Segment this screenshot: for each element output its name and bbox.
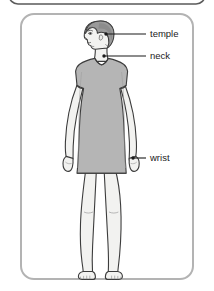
annotation-neck[interactable]: neck xyxy=(102,50,170,61)
label-temple: temple xyxy=(150,28,179,39)
diagram-canvas: temple neck wrist xyxy=(0,0,214,291)
annotation-temple[interactable]: temple xyxy=(104,28,178,39)
temple-marker-dot xyxy=(104,32,107,35)
neck-marker-dot xyxy=(102,54,105,57)
label-neck: neck xyxy=(150,50,170,61)
label-wrist: wrist xyxy=(149,152,170,163)
annotation-wrist[interactable]: wrist xyxy=(131,152,170,163)
annotations-layer: temple neck wrist xyxy=(0,0,214,291)
wrist-marker-dot xyxy=(131,156,134,159)
